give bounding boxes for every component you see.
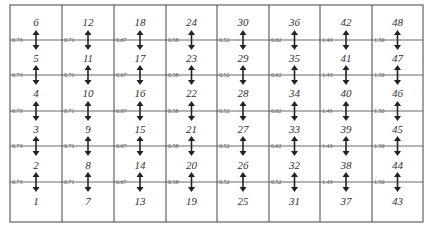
boundary-value-label: 0.71	[64, 108, 75, 114]
cell-number: 19	[186, 195, 198, 207]
boundary-value-label: 0.52	[219, 72, 230, 78]
boundary-value-label: 0.71	[64, 72, 75, 78]
boundary-value-label: 1.50	[374, 143, 385, 149]
cell-number: 26	[238, 159, 250, 171]
cell-number: 8	[85, 159, 91, 171]
grid-diagram: 6543210.730.730.730.730.731211109870.710…	[0, 0, 429, 229]
boundary-value-label: 0.58	[168, 108, 179, 114]
boundary-value-label: 1.50	[374, 179, 385, 185]
cell-number: 33	[288, 123, 301, 135]
cell-number: 18	[135, 16, 147, 28]
grid-content: 6543210.730.730.730.730.731211109870.710…	[12, 16, 404, 207]
boundary-value-label: 0.58	[168, 143, 179, 149]
boundary-value-label: 0.52	[219, 108, 230, 114]
cell-number: 42	[341, 16, 353, 28]
cell-number: 44	[392, 159, 404, 171]
boundary-value-label: 0.71	[64, 37, 75, 43]
boundary-value-label: 0.71	[64, 143, 75, 149]
cell-number: 15	[135, 123, 147, 135]
boundary-value-label: 1.50	[374, 72, 385, 78]
boundary-value-label: 0.52	[219, 37, 230, 43]
boundary-value-label: 0.58	[168, 37, 179, 43]
cell-number: 28	[238, 87, 250, 99]
cell-number: 41	[341, 52, 352, 64]
cell-number: 14	[135, 159, 147, 171]
boundary-value-label: 0.62	[271, 108, 282, 114]
cell-number: 20	[186, 159, 198, 171]
boundary-value-label: 1.50	[374, 108, 385, 114]
cell-number: 31	[288, 195, 300, 207]
boundary-value-label: 0.73	[12, 72, 23, 78]
boundary-value-label: 0.62	[271, 72, 282, 78]
boundary-value-label: 0.73	[12, 179, 23, 185]
boundary-value-label: 1.50	[374, 37, 385, 43]
cell-number: 24	[186, 16, 198, 28]
cell-number: 13	[135, 195, 147, 207]
boundary-value-label: 0.73	[12, 108, 23, 114]
boundary-value-label: 0.52	[219, 143, 230, 149]
cell-number: 37	[340, 195, 353, 207]
cell-number: 40	[341, 87, 353, 99]
boundary-value-label: 1.43	[322, 108, 333, 114]
cell-number: 46	[392, 87, 404, 99]
boundary-value-label: 0.58	[168, 179, 179, 185]
cell-number: 12	[83, 16, 95, 28]
cell-number: 22	[186, 87, 198, 99]
boundary-value-label: 0.62	[271, 143, 282, 149]
cell-number: 29	[238, 52, 250, 64]
boundary-value-label: 0.71	[64, 179, 75, 185]
cell-number: 6	[33, 16, 39, 28]
cell-number: 5	[33, 52, 39, 64]
cell-number: 39	[340, 123, 353, 135]
cell-number: 17	[135, 52, 147, 64]
cell-number: 25	[238, 195, 250, 207]
boundary-value-label: 0.52	[271, 179, 282, 185]
cell-number: 45	[392, 123, 404, 135]
boundary-value-label: 1.43	[322, 179, 333, 185]
cell-number: 21	[186, 123, 197, 135]
cell-number: 47	[392, 52, 404, 64]
boundary-value-label: 0.62	[271, 37, 282, 43]
boundary-value-label: 0.67	[116, 143, 127, 149]
cell-number: 35	[288, 52, 301, 64]
cell-number: 2	[33, 159, 39, 171]
cell-number: 10	[83, 87, 95, 99]
boundary-value-label: 1.43	[322, 37, 333, 43]
cell-number: 36	[288, 16, 301, 28]
cell-number: 32	[288, 159, 301, 171]
cell-number: 48	[392, 16, 404, 28]
cell-number: 1	[33, 195, 39, 207]
cell-number: 3	[32, 123, 39, 135]
cell-number: 23	[186, 52, 198, 64]
boundary-value-label: 0.58	[168, 72, 179, 78]
boundary-value-label: 0.67	[116, 37, 127, 43]
cell-number: 11	[83, 52, 93, 64]
cell-number: 4	[33, 87, 39, 99]
boundary-value-label: 0.52	[219, 179, 230, 185]
cell-number: 34	[288, 87, 301, 99]
cell-number: 16	[135, 87, 147, 99]
boundary-value-label: 0.73	[12, 37, 23, 43]
boundary-value-label: 0.67	[116, 72, 127, 78]
boundary-value-label: 0.67	[116, 179, 127, 185]
cell-number: 27	[238, 123, 250, 135]
cell-number: 43	[392, 195, 404, 207]
boundary-value-label: 1.43	[322, 72, 333, 78]
cell-number: 30	[237, 16, 250, 28]
boundary-value-label: 0.73	[12, 143, 23, 149]
cell-number: 7	[85, 195, 91, 207]
boundary-value-label: 0.67	[116, 108, 127, 114]
cell-number: 9	[85, 123, 91, 135]
boundary-value-label: 1.43	[322, 143, 333, 149]
cell-number: 38	[340, 159, 353, 171]
